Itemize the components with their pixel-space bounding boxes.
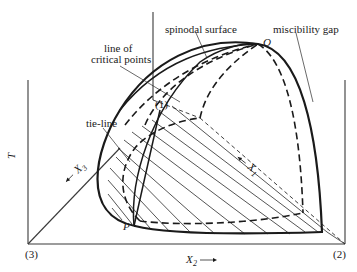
critical-point-line xyxy=(134,110,160,226)
point-1-label: (1) xyxy=(155,98,168,111)
point-p-label: P xyxy=(122,220,130,232)
spinodal-base-dashed xyxy=(140,213,303,224)
ternary-miscibility-gap-diagram: spinodal surface miscibility gap line of… xyxy=(0,0,357,272)
base-right-edge xyxy=(327,232,345,244)
corner-3-label: (3) xyxy=(25,248,38,261)
point-q-label: Q xyxy=(263,36,271,48)
axis-t-label: T xyxy=(5,152,17,159)
binodal-back-curve xyxy=(135,226,322,233)
corner-2-label: (2) xyxy=(333,248,346,261)
miscibility-gap-label: miscibility gap xyxy=(273,23,339,35)
spinodal-surface-label: spinodal surface xyxy=(165,23,237,35)
miscibility-gap-surface xyxy=(98,42,323,233)
spinodal-inner-dashed xyxy=(200,44,258,118)
svg-text:2: 2 xyxy=(193,259,197,268)
tie-line-label: tie-line xyxy=(86,117,117,129)
x1-direction-edge xyxy=(200,118,345,244)
line-of-critical-points-label-2: critical points xyxy=(91,53,151,65)
axis-x3-label: X 3 xyxy=(61,159,89,187)
axis-x1-label: X 1 xyxy=(233,152,262,179)
tie-line-leader xyxy=(103,128,130,162)
binodal-inner-curve xyxy=(134,44,258,226)
axis-x2-label: X 2 xyxy=(185,253,217,268)
spinodal-surface xyxy=(123,44,303,224)
base-diagonal-edge xyxy=(28,148,120,244)
miscibility-gap-leader xyxy=(296,33,313,102)
